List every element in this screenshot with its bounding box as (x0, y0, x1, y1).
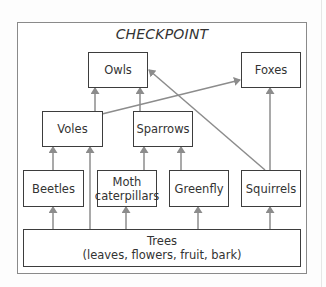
node-owls: Owls (88, 52, 148, 88)
node-label: Squirrels (246, 182, 296, 196)
node-label: Voles (57, 122, 87, 136)
node-moth-caterpillars: Moth caterpillars (97, 170, 157, 207)
node-label-line2: (leaves, flowers, fruit, bark) (82, 248, 241, 262)
node-label: Foxes (255, 63, 287, 77)
node-label: Greenfly (175, 182, 224, 196)
node-sparrows: Sparrows (133, 111, 193, 147)
node-label-line1: Trees (147, 234, 177, 248)
node-label: Owls (104, 63, 132, 77)
node-greenfly: Greenfly (169, 170, 229, 207)
node-trees: Trees (leaves, flowers, fruit, bark) (23, 229, 301, 267)
node-label-line1: Moth (113, 175, 142, 189)
node-label: Beetles (32, 182, 75, 196)
node-foxes: Foxes (241, 52, 301, 88)
node-beetles: Beetles (23, 170, 84, 207)
node-voles: Voles (42, 111, 103, 147)
node-label-line2: caterpillars (95, 189, 159, 203)
node-squirrels: Squirrels (241, 170, 301, 207)
node-label: Sparrows (136, 122, 189, 136)
